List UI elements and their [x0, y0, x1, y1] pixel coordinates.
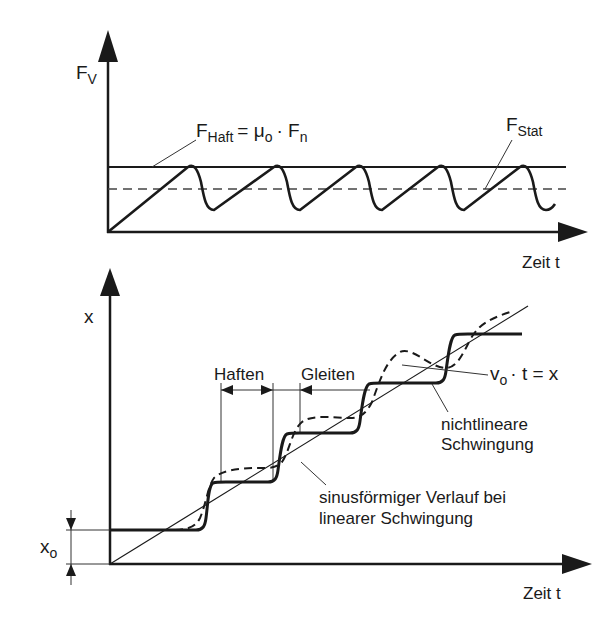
haften-arrow-right-icon — [261, 385, 273, 395]
gleiten-arrow-icon — [300, 385, 312, 395]
haften-label: Haften — [214, 365, 264, 384]
x0-arrow-up-icon — [66, 564, 76, 576]
top-y-axis-label: FV — [76, 62, 98, 87]
nonlinear-leader-line — [432, 384, 448, 412]
haften-arrow-left-icon — [221, 385, 233, 395]
bottom-y-axis-label: x — [84, 306, 94, 327]
bottom-y-axis-arrow-icon — [100, 268, 120, 296]
top-x-axis-label: Zeit t — [522, 253, 560, 272]
linear-equation-label: vo· t = x — [490, 363, 559, 388]
x0-arrow-down-icon — [66, 518, 76, 530]
top-y-axis-arrow-icon — [98, 30, 118, 62]
x0-label: xo — [40, 536, 58, 561]
sine-label-line1: sinusförmiger Verlauf bei — [319, 488, 506, 507]
nonlinear-label-line1: nichtlineare — [441, 415, 528, 434]
stat-leader-line — [485, 140, 512, 189]
haft-force-label: FHaft= μo· Fn — [196, 120, 307, 145]
haft-leader-line — [152, 140, 196, 167]
bottom-plot: xo Haften Gleiten vo· t = x nichtlineare… — [40, 268, 592, 603]
sine-label-line2: linearer Schwingung — [319, 509, 473, 528]
top-plot: FV FHaft= μo· Fn FStat Zeit t — [76, 30, 588, 272]
bottom-x-axis-arrow-icon — [562, 554, 592, 574]
stick-slip-diagram: FV FHaft= μo· Fn FStat Zeit t xo Haft — [0, 0, 614, 620]
bottom-x-axis-label: Zeit t — [523, 584, 561, 603]
stat-force-label: FStat — [506, 114, 543, 139]
gleiten-label: Gleiten — [301, 365, 355, 384]
sine-leader-line — [301, 462, 326, 485]
nonlinear-label-line2: Schwingung — [441, 435, 534, 454]
friction-force-sawtooth — [108, 166, 555, 232]
top-x-axis-arrow-icon — [558, 222, 588, 242]
